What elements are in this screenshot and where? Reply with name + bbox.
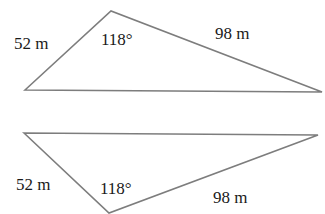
side-label-52m: 52 m — [16, 175, 50, 194]
side-label-98m: 98 m — [213, 188, 247, 207]
diagram-canvas: 52 m 118° 98 m 52 m 118° 98 m — [0, 0, 325, 214]
triangle-top-outline — [25, 11, 322, 92]
triangle-top: 52 m 118° 98 m — [14, 11, 322, 92]
triangle-bottom: 52 m 118° 98 m — [16, 133, 318, 213]
side-label-52m: 52 m — [14, 34, 48, 53]
triangle-bottom-outline — [24, 133, 318, 213]
side-label-98m: 98 m — [215, 24, 249, 43]
angle-label-118: 118° — [101, 30, 133, 49]
angle-label-118: 118° — [100, 179, 132, 198]
